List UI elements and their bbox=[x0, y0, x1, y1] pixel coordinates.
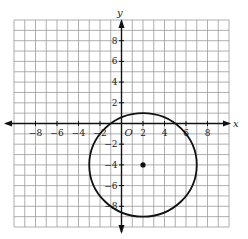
x-axis-label: x bbox=[233, 118, 239, 129]
x-tick-label: 4 bbox=[162, 128, 168, 138]
x-axis-right-arrow-icon bbox=[223, 121, 231, 127]
x-tick-label: −4 bbox=[72, 128, 86, 138]
x-tick-label: 8 bbox=[205, 128, 211, 138]
coordinate-plane: −8−6−4−224688642−2−4−6−8 x y O bbox=[0, 0, 248, 239]
y-tick-label: −4 bbox=[104, 160, 118, 170]
y-tick-label: 2 bbox=[112, 98, 118, 108]
x-tick-label: 2 bbox=[140, 128, 146, 138]
x-axis-left-arrow-icon bbox=[4, 121, 12, 127]
center-point bbox=[140, 162, 145, 167]
origin-label: O bbox=[125, 127, 133, 138]
y-tick-label: 8 bbox=[112, 36, 118, 46]
y-tick-label: −6 bbox=[104, 181, 118, 191]
center-dot bbox=[140, 162, 145, 167]
y-axis-label: y bbox=[116, 7, 123, 18]
y-tick-label: 4 bbox=[112, 77, 118, 87]
y-tick-label: −2 bbox=[104, 139, 117, 149]
x-tick-label: −6 bbox=[50, 128, 64, 138]
y-axis-down-arrow-icon bbox=[119, 225, 125, 234]
x-tick-label: −8 bbox=[29, 128, 43, 138]
y-tick-label: 6 bbox=[112, 56, 118, 66]
